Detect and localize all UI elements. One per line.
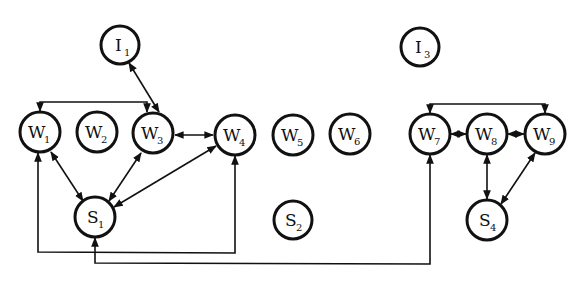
node-W9-sub: 9 xyxy=(549,136,555,147)
node-I1-sub: 1 xyxy=(124,47,130,58)
node-W4-sub: 4 xyxy=(239,137,245,148)
node-S4-sub: 4 xyxy=(490,222,496,233)
edge-W1-W4-loop xyxy=(38,153,235,253)
node-W5: W 5 xyxy=(273,115,313,155)
node-W2-sub: 2 xyxy=(101,134,107,145)
edge-S1-W7 xyxy=(95,155,430,264)
node-W5-sub: 5 xyxy=(297,137,303,148)
node-I1: I 1 xyxy=(101,26,139,64)
node-I1-letter: I xyxy=(115,35,122,55)
node-I3-sub: 3 xyxy=(424,49,430,60)
node-W9: W 9 xyxy=(525,114,565,154)
node-S2-letter: S xyxy=(285,210,297,230)
node-W3-sub: 3 xyxy=(157,135,163,146)
node-W7-sub: 7 xyxy=(434,136,440,147)
edge-W7-W9-bracket xyxy=(430,104,545,113)
node-S4: S 4 xyxy=(467,200,507,240)
node-W6-sub: 6 xyxy=(354,136,360,147)
network-diagram: I 1 I 3 W 1 W 2 W 3 W 4 W 5 W 6 W 7 xyxy=(0,0,580,288)
edge-W1-S1 xyxy=(51,152,83,201)
edge-W1-W3-bracket xyxy=(40,102,147,112)
node-W7: W 7 xyxy=(410,114,450,154)
node-S1-sub: 1 xyxy=(98,219,104,230)
node-W1: W 1 xyxy=(20,112,60,152)
node-S1: S 1 xyxy=(75,197,115,237)
node-W4: W 4 xyxy=(215,115,255,155)
node-S2-sub: 2 xyxy=(296,222,302,233)
node-S1-letter: S xyxy=(87,207,99,227)
node-I3-letter: I xyxy=(415,37,422,57)
node-I3: I 3 xyxy=(401,28,439,66)
node-W3: W 3 xyxy=(133,113,173,153)
node-W2: W 2 xyxy=(77,112,117,152)
node-W8-sub: 8 xyxy=(491,136,497,147)
node-S4-letter: S xyxy=(479,210,491,230)
edge-I1-W3 xyxy=(129,63,159,112)
node-S2: S 2 xyxy=(274,201,312,239)
node-W6: W 6 xyxy=(330,114,370,154)
edge-W9-S4 xyxy=(501,153,535,204)
node-W8: W 8 xyxy=(467,114,507,154)
edge-W4-S1 xyxy=(114,146,216,207)
node-W1-sub: 1 xyxy=(44,134,50,145)
